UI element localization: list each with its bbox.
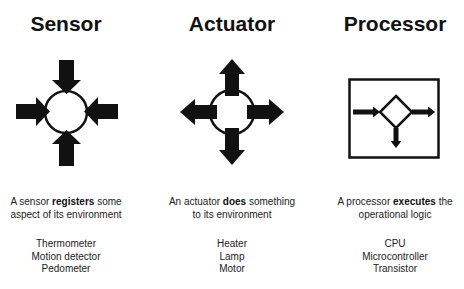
outward-arrows-circle-icon [179, 58, 285, 166]
example-item: Lamp [162, 251, 302, 264]
actuator-title: Actuator [162, 10, 302, 38]
sensor-emphasis: registers [52, 196, 94, 207]
sensor-examples: Thermometer Motion detector Pedometer [0, 238, 132, 276]
processor-emphasis: executes [393, 196, 436, 207]
example-item: Microcontroller [326, 251, 464, 264]
example-item: CPU [326, 238, 464, 251]
decision-diamond-box-icon [348, 78, 442, 160]
actuator-emphasis: does [223, 196, 246, 207]
processor-examples: CPU Microcontroller Transistor [326, 238, 464, 276]
example-item: Motion detector [0, 251, 132, 264]
processor-title: Processor [326, 10, 464, 38]
sensor-description: A sensor registers some aspect of its en… [0, 195, 132, 221]
sensor-title: Sensor [0, 10, 132, 38]
processor-description: A processor executes the operational log… [326, 195, 464, 221]
example-item: Transistor [326, 263, 464, 276]
example-item: Pedometer [0, 263, 132, 276]
example-item: Motor [162, 263, 302, 276]
actuator-description: An actuator does something to its enviro… [162, 195, 302, 221]
example-item: Thermometer [0, 238, 132, 251]
actuator-examples: Heater Lamp Motor [162, 238, 302, 276]
example-item: Heater [162, 238, 302, 251]
inward-arrows-circle-icon [14, 58, 120, 168]
